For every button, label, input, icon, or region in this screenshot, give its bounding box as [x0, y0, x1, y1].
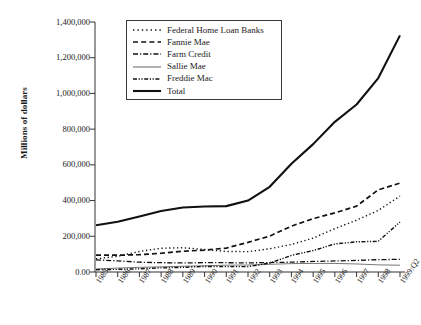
dash-dot-line-icon	[132, 49, 162, 59]
series-line-federal-home-loan-banks	[96, 196, 400, 259]
legend-item-total: Total	[127, 85, 281, 97]
legend-label: Freddie Mac	[167, 74, 213, 83]
dotted-line-icon	[132, 25, 162, 35]
legend-item-freddie-mac: Freddie Mac	[127, 73, 281, 85]
legend-label: Federal Home Loan Banks	[167, 26, 264, 35]
legend-label: Sallie Mae	[167, 62, 206, 71]
legend-item-fannie-mae: Fannie Mae	[127, 36, 281, 48]
y-axis-ticks	[90, 22, 95, 272]
legend-item-federal-home-loan-banks: Federal Home Loan Banks	[127, 24, 281, 36]
thick-solid-line-icon	[132, 86, 162, 96]
dash-dot-dot-line-icon	[132, 74, 162, 84]
legend-label: Fannie Mae	[167, 38, 210, 47]
legend-label: Farm Credit	[167, 50, 211, 59]
legend-item-farm-credit: Farm Credit	[127, 48, 281, 60]
dashed-line-icon	[132, 37, 162, 47]
series-line-farm-credit	[96, 259, 400, 263]
legend-label: Total	[167, 87, 185, 96]
series-line-fannie-mae	[96, 183, 400, 255]
chart-legend: Federal Home Loan Banks Fannie Mae Farm …	[126, 20, 282, 100]
thin-solid-line-icon	[132, 62, 162, 72]
legend-item-sallie-mae: Sallie Mae	[127, 61, 281, 73]
x-axis-ticks	[96, 272, 400, 277]
